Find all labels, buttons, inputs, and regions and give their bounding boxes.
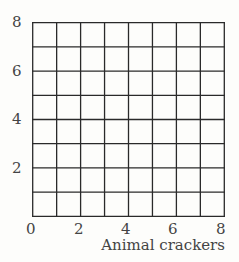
y-tick-4: 4 [12, 112, 22, 127]
x-tick-4: 4 [121, 222, 131, 237]
x-tick-8: 8 [216, 222, 226, 237]
x-tick-0: 0 [26, 222, 36, 237]
plot-grid [32, 22, 225, 217]
y-tick-2: 2 [12, 161, 22, 176]
x-tick-2: 2 [74, 222, 84, 237]
x-tick-6: 6 [168, 222, 178, 237]
x-axis-label: Animal crackers [101, 236, 225, 254]
y-tick-6: 6 [12, 64, 22, 79]
y-tick-8: 8 [12, 15, 22, 30]
